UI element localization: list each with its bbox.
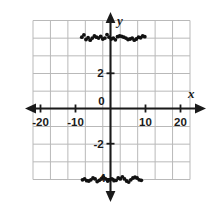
x-tick-label: -10 xyxy=(67,116,84,128)
y-tick-label: 4 xyxy=(99,172,106,184)
data-point xyxy=(143,35,147,39)
x-axis-right-arrow xyxy=(195,104,206,114)
coordinate-plane: -20-10102002-24 y x xyxy=(0,0,218,212)
x-axis-left-arrow xyxy=(25,104,36,114)
data-point xyxy=(114,38,118,42)
y-tick-label: -2 xyxy=(93,138,103,150)
x-tick-label: 10 xyxy=(139,116,152,128)
data-point xyxy=(82,33,86,37)
origin-label: 0 xyxy=(98,95,104,107)
x-axis-title: x xyxy=(187,86,195,101)
x-tick-label: 20 xyxy=(174,116,187,128)
y-axis-top-arrow xyxy=(106,12,116,23)
y-tick-label: 2 xyxy=(97,67,103,79)
y-axis-bottom-arrow xyxy=(106,191,116,202)
x-tick-label: -20 xyxy=(32,116,49,128)
data-point xyxy=(103,36,107,40)
y-axis-title: y xyxy=(115,13,123,28)
scatter-plot-figure: -20-10102002-24 y x xyxy=(0,0,218,212)
data-point xyxy=(139,178,143,182)
